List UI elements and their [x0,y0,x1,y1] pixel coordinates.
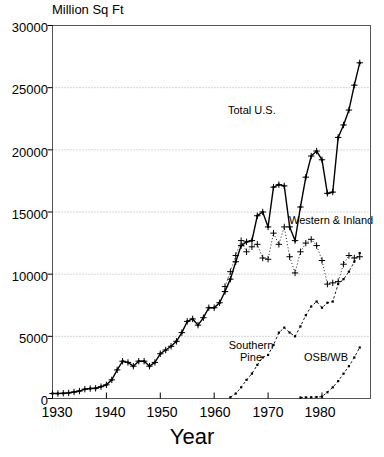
series-osb-wb [299,346,360,398]
series-layer [49,60,363,399]
chart-figure: Million Sq Ft 30000 25000 20000 15000 10… [0,0,384,457]
series-total-u-s [49,60,363,397]
chart-plot-area [0,0,384,457]
gridlines [53,26,371,337]
